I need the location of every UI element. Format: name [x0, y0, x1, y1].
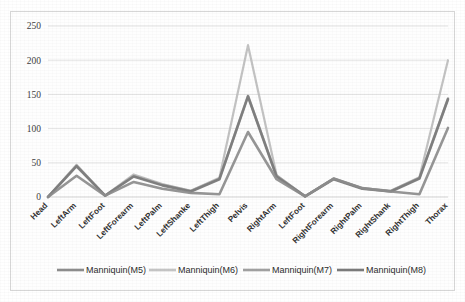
line-chart-plot: 050100150200250 HeadLeftArmLeftFootLeftF…	[11, 12, 454, 290]
x-tick-label: Pelvis	[226, 201, 249, 224]
x-tick-label: Head	[29, 201, 50, 222]
y-axis-tick-labels: 050100150200250	[27, 21, 42, 202]
x-tick-label: LeftFoot	[77, 201, 107, 231]
chart-legend: Manniquin(M5)Manniquin(M6)Manniquin(M7)M…	[57, 265, 426, 275]
series-line-manniquinm7	[48, 96, 448, 197]
legend-label-manniquinm6[interactable]: Manniquin(M6)	[178, 265, 238, 275]
y-tick-label: 200	[27, 56, 42, 66]
legend-label-manniquinm8[interactable]: Manniquin(M8)	[366, 265, 426, 275]
gridlines-group	[48, 26, 448, 197]
x-tick-label: RightArm	[245, 201, 278, 234]
series-line-manniquinm8	[48, 96, 448, 197]
y-tick-label: 0	[36, 192, 41, 202]
x-tick-label: LeftFoot	[277, 201, 307, 231]
x-tick-label: LeftThigh	[188, 201, 221, 234]
x-tick-label: Thorax	[424, 201, 450, 227]
chart-container: 050100150200250 HeadLeftArmLeftFootLeftF…	[10, 11, 455, 291]
y-tick-label: 150	[27, 90, 42, 100]
x-axis-tick-labels: HeadLeftArmLeftFootLeftForearmLeftPalmLe…	[29, 201, 450, 246]
series-line-manniquinm6	[48, 45, 448, 197]
x-tick-label: LeftArm	[49, 201, 78, 230]
legend-label-manniquinm5[interactable]: Manniquin(M5)	[86, 265, 146, 275]
legend-label-manniquinm7[interactable]: Manniquin(M7)	[272, 265, 332, 275]
data-series-group	[48, 45, 448, 197]
y-tick-label: 100	[27, 124, 42, 134]
y-tick-label: 50	[32, 158, 42, 168]
y-tick-label: 250	[27, 21, 42, 31]
